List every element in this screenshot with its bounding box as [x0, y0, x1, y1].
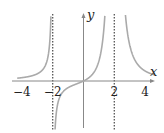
y-axis-arrow-icon	[82, 13, 86, 18]
curve-branch	[17, 16, 51, 78]
x-tick-label: 4	[141, 85, 149, 99]
x-tick-label: 2	[110, 85, 118, 99]
y-axis-label: y	[86, 7, 95, 22]
function-graph: x y −4−224	[0, 0, 164, 133]
x-tick-label: −2	[44, 85, 62, 99]
curve-branch	[55, 16, 105, 130]
function-curve	[17, 15, 154, 129]
x-axis-arrow-icon	[150, 79, 155, 83]
x-tick-label: −4	[13, 85, 31, 99]
x-tick-labels: −4−224	[13, 85, 149, 99]
x-axis-label: x	[150, 64, 158, 79]
